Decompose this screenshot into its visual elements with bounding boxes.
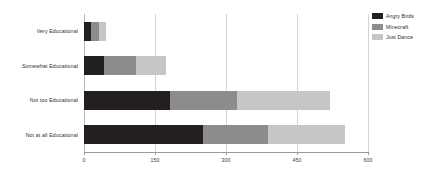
- legend-label: Angry Birds: [386, 13, 414, 19]
- x-tick-label: 450: [293, 157, 302, 163]
- gridline-600: [368, 14, 369, 152]
- legend-item[interactable]: Just Dance: [372, 33, 438, 41]
- bar-segment[interactable]: [203, 125, 268, 144]
- x-tick: [84, 152, 85, 155]
- x-tick: [226, 152, 227, 155]
- x-tick-label: 600: [364, 157, 373, 163]
- stacked-bar-chart: Angry BirdsMinecraftJust Dance Very Educ…: [0, 0, 442, 174]
- bar-segment[interactable]: [84, 22, 91, 41]
- legend-label: Just Dance: [386, 34, 413, 40]
- legend-swatch-icon: [372, 13, 383, 19]
- bar-segment[interactable]: [104, 56, 136, 75]
- category-label: Somewhat Educational: [0, 63, 78, 69]
- category-label: Not at all Educational: [0, 132, 78, 138]
- x-tick-label: 150: [151, 157, 160, 163]
- legend-item[interactable]: Angry Birds: [372, 12, 438, 20]
- bar-segment[interactable]: [136, 56, 166, 75]
- legend-swatch-icon: [372, 34, 383, 40]
- bar-segment[interactable]: [84, 91, 170, 110]
- bar-segment[interactable]: [237, 91, 330, 110]
- bar-row[interactable]: [84, 56, 166, 75]
- bar-segment[interactable]: [84, 56, 104, 75]
- bar-row[interactable]: [84, 22, 106, 41]
- x-tick: [368, 152, 369, 155]
- x-tick-label: 0: [83, 157, 86, 163]
- legend-label: Minecraft: [386, 24, 408, 30]
- category-label: Very Educational: [0, 28, 78, 34]
- bar-segment[interactable]: [91, 22, 99, 41]
- plot-area: [84, 14, 368, 152]
- legend-item[interactable]: Minecraft: [372, 23, 438, 31]
- bar-segment[interactable]: [170, 91, 237, 110]
- bar-row[interactable]: [84, 91, 330, 110]
- x-tick: [297, 152, 298, 155]
- legend-swatch-icon: [372, 24, 383, 30]
- x-tick-label: 300: [222, 157, 231, 163]
- x-tick: [155, 152, 156, 155]
- bar-segment[interactable]: [268, 125, 345, 144]
- chart-legend: Angry BirdsMinecraftJust Dance: [372, 12, 438, 44]
- category-label: Not too Educational: [0, 97, 78, 103]
- bar-segment[interactable]: [84, 125, 203, 144]
- bar-segment[interactable]: [99, 22, 106, 41]
- bar-row[interactable]: [84, 125, 345, 144]
